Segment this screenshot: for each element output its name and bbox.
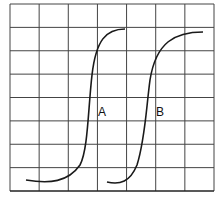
curve-b	[107, 32, 203, 183]
curve-label-b: B	[156, 105, 164, 119]
sigmoid-curves-diagram: A B	[0, 0, 217, 202]
grid-plot	[0, 0, 217, 202]
curve-a	[26, 29, 125, 182]
curve-label-a: A	[98, 105, 106, 119]
